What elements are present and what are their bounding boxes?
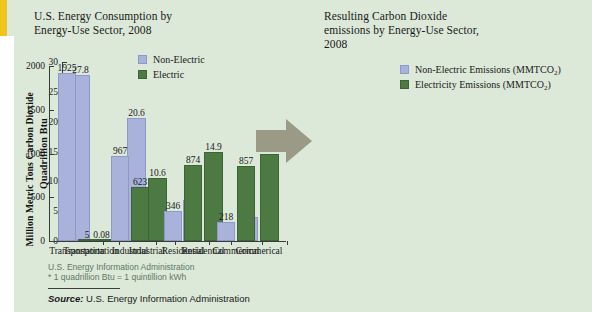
x-category-residential: Residential <box>162 246 205 256</box>
chart-title-line2: emissions by Energy-Use Sector, <box>324 24 479 36</box>
y-tick-1500: 1500 <box>26 105 50 115</box>
chart-title-line1: U.S. Energy Consumption by <box>34 10 172 22</box>
legend-label-tail: ) <box>557 64 560 75</box>
x-category-industrial: Industrial <box>112 246 148 256</box>
chart-title-energy-consumption: U.S. Energy Consumption by Energy-Use Se… <box>34 9 264 37</box>
x-category-transportation: Transportation <box>49 246 105 256</box>
bar-value-label: 857 <box>239 156 253 166</box>
bar-electricity-emissions-industrial[interactable]: 623 <box>131 187 149 242</box>
bar-value-label: 874 <box>186 155 200 165</box>
legend-label-text: Non-Electric Emissions (MMTCO <box>415 64 554 75</box>
left-margin-strip <box>0 36 14 312</box>
bar-electricity-emissions-transportation[interactable]: 5 <box>78 239 96 241</box>
legend-label-text: Electricity Emissions (MMTCO <box>415 79 544 90</box>
legend-item-electricity-emissions: Electricity Emissions (MMTCO2) <box>400 79 561 90</box>
chart-title-line1: Resulting Carbon Dioxide <box>324 10 447 22</box>
bar-value-label: 623 <box>133 177 147 187</box>
x-tick-2 <box>156 241 157 245</box>
x-category-commerical: Commerical <box>213 246 260 256</box>
bar-non-electric-emissions-transportation[interactable]: 1925 <box>58 73 76 241</box>
y-tick-2000: 2000 <box>26 61 50 71</box>
x-tick-3 <box>209 241 210 245</box>
y-axis-label-right: Million Metric Tons Carbon Dioxide <box>25 92 35 247</box>
figure-container: U.S. Energy Consumption by Energy-Use Se… <box>0 0 592 312</box>
bar-value-label: 346 <box>166 201 180 211</box>
bar-non-electric-emissions-residential[interactable]: 346 <box>164 211 182 241</box>
bar-non-electric-emissions-commerical[interactable]: 218 <box>217 222 235 241</box>
bar-value-label: 218 <box>219 212 233 222</box>
legend-label-subscript: 2 <box>544 84 548 92</box>
chart-panel-co2-emissions: Resulting Carbon Dioxide emissions by En… <box>314 0 592 312</box>
plot-area-co2-emissions: 0 500 1000 1500 2000 1925 5 Transportati… <box>49 66 263 242</box>
bar-electricity-emissions-residential[interactable]: 874 <box>184 165 202 241</box>
legend-swatch-electricity-emissions-icon <box>400 80 409 89</box>
legend-label-tail: ) <box>547 79 550 90</box>
legend-label-subscript: 2 <box>554 69 558 77</box>
chart-title-line3: 2008 <box>324 38 347 50</box>
legend-item-non-electric-emissions: Non-Electric Emissions (MMTCO2) <box>400 64 561 75</box>
x-tick-4 <box>287 241 288 245</box>
bar-non-electric-emissions-industrial[interactable]: 967 <box>111 156 129 241</box>
legend-label-non-electric-emissions: Non-Electric Emissions (MMTCO2) <box>415 64 561 75</box>
x-tick-1 <box>103 241 104 245</box>
y-tick-500: 500 <box>31 192 50 202</box>
y-tick-0: 0 <box>40 236 50 246</box>
source-label: Source: <box>48 293 83 304</box>
accent-tab-pad <box>7 0 14 36</box>
legend-label-electricity-emissions: Electricity Emissions (MMTCO2) <box>415 79 551 90</box>
x-tick-4 <box>262 241 263 245</box>
source-text: U.S. Energy Information Administration <box>86 293 250 304</box>
footnote-agency: U.S. Energy Information Administration <box>48 262 194 272</box>
footnote-unit-conversion: * 1 quadrillion Btu = 1 quintillion kWh <box>48 272 186 282</box>
chart-title-line2: Energy-Use Sector, 2008 <box>34 24 152 36</box>
y-tick-1000: 1000 <box>26 149 50 159</box>
bar-electricity-emissions-commerical[interactable]: 857 <box>237 166 255 241</box>
legend-co2-emissions: Non-Electric Emissions (MMTCO2) Electric… <box>400 64 561 94</box>
bar-value-label: 1925 <box>58 63 77 73</box>
legend-swatch-non-electric-emissions-icon <box>400 65 409 74</box>
source-line: Source: U.S. Energy Information Administ… <box>48 293 250 304</box>
source-divider <box>48 288 120 289</box>
right-arrow-icon <box>256 118 312 164</box>
chart-title-co2-emissions: Resulting Carbon Dioxide emissions by En… <box>324 9 554 51</box>
accent-tab <box>0 0 7 36</box>
bar-value-label: 967 <box>113 146 127 156</box>
bar-value-label: 5 <box>85 230 90 240</box>
